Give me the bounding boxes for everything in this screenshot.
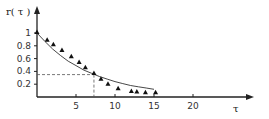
x-tick-label: 10	[109, 101, 121, 111]
triangle-marker-icon	[69, 54, 74, 59]
dashed-guides	[37, 75, 94, 97]
data-points	[35, 30, 159, 95]
triangle-marker-icon	[105, 81, 110, 86]
axes	[34, 6, 254, 100]
triangle-marker-icon	[116, 86, 121, 91]
triangle-marker-icon	[35, 30, 40, 35]
triangle-marker-icon	[59, 47, 64, 52]
x-axis-arrow-icon	[246, 94, 254, 100]
x-tick-label: 20	[187, 101, 199, 111]
triangle-marker-icon	[143, 90, 148, 95]
triangle-marker-icon	[51, 42, 56, 47]
y-tick-label: 0.6	[17, 54, 32, 64]
triangle-marker-icon	[134, 89, 139, 94]
y-axis-arrow-icon	[34, 6, 40, 14]
y-tick-label: 1	[25, 28, 31, 38]
x-tick-label: 15	[148, 101, 159, 111]
triangle-marker-icon	[129, 88, 134, 93]
correlation-chart: 10.80.60.40.2 5101520 r( τ ) τ	[0, 0, 269, 119]
triangle-marker-icon	[77, 60, 82, 65]
fit-curve	[37, 33, 154, 89]
triangle-marker-icon	[45, 37, 50, 42]
triangle-marker-icon	[91, 70, 96, 75]
x-axis-label: τ	[233, 103, 239, 114]
x-tick-label: 5	[73, 101, 79, 111]
triangle-marker-icon	[153, 90, 158, 95]
y-tick-label: 0.8	[17, 41, 32, 51]
y-axis-label: r( τ )	[6, 6, 31, 17]
y-tick-label: 0.2	[17, 79, 31, 89]
y-tick-label: 0.4	[17, 66, 32, 76]
y-ticks: 10.80.60.40.2	[17, 28, 37, 89]
triangle-marker-icon	[83, 65, 88, 70]
